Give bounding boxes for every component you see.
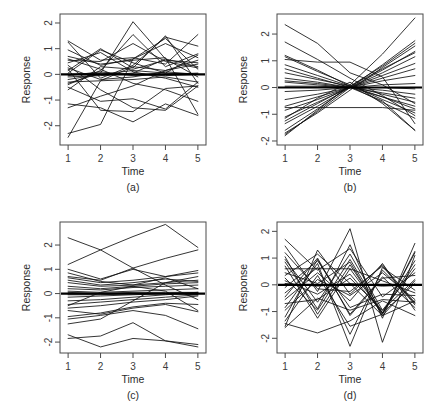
y-tick-label: 0 (260, 282, 271, 288)
y-tick-label: 1 (43, 45, 54, 51)
y-tick-label: 0 (43, 290, 54, 296)
panel-caption-a: (a) (127, 181, 140, 193)
series-line (68, 303, 198, 316)
x-tick-label: 1 (65, 153, 71, 164)
series-line (68, 304, 198, 314)
series-group (68, 224, 198, 347)
x-tick-label: 3 (130, 153, 136, 164)
y-tick-label: -1 (43, 95, 54, 104)
x-tick-label: 4 (380, 361, 386, 372)
series-line (285, 259, 415, 312)
x-tick-label: 5 (412, 153, 418, 164)
series-line (68, 250, 198, 280)
spaghetti-plot-a: 12345-2-1012ResponseTime(a) (0, 0, 222, 206)
spaghetti-plot-c: 12345-2-1012ResponseTime(c) (0, 206, 222, 412)
y-axis-label: Response (20, 264, 32, 311)
chart-panel-a: 12345-2-1012ResponseTime(a) (0, 0, 222, 206)
series-line (68, 323, 198, 345)
x-tick-label: 1 (65, 361, 71, 372)
y-tick-label: -1 (43, 313, 54, 322)
x-tick-label: 2 (315, 153, 321, 164)
series-line (285, 298, 415, 327)
spaghetti-plot-d: 12345-2-1012ResponseTime(d) (222, 206, 444, 412)
y-tick-label: 2 (260, 31, 271, 37)
y-tick-label: -2 (260, 136, 271, 145)
chart-panel-b: 12345-2-1012ResponseTime(b) (222, 0, 444, 206)
series-line (68, 271, 198, 283)
series-line (68, 311, 198, 329)
y-tick-label: -1 (260, 307, 271, 316)
spaghetti-plot-b: 12345-2-1012ResponseTime(b) (222, 0, 444, 206)
panel-caption-c: (c) (127, 389, 139, 401)
panel-caption-b: (b) (344, 181, 357, 193)
series-line (68, 104, 198, 122)
y-tick-label: 0 (43, 71, 54, 77)
x-tick-label: 3 (347, 361, 353, 372)
series-line (68, 238, 198, 300)
x-tick-label: 1 (282, 361, 288, 372)
x-tick-label: 1 (282, 153, 288, 164)
x-tick-label: 5 (195, 153, 201, 164)
series-line (285, 82, 415, 130)
series-group (285, 229, 415, 347)
series-group (68, 22, 198, 138)
x-tick-label: 2 (315, 361, 321, 372)
panel-caption-d: (d) (344, 389, 357, 401)
y-tick-label: -1 (260, 109, 271, 118)
chart-panel-d: 12345-2-1012ResponseTime(d) (222, 206, 444, 412)
x-tick-label: 3 (347, 153, 353, 164)
x-tick-label: 4 (163, 361, 169, 372)
series-line (285, 301, 415, 333)
y-tick-label: 2 (43, 242, 54, 248)
y-tick-label: 1 (260, 255, 271, 261)
y-axis-label: Response (20, 56, 32, 103)
x-tick-label: 2 (98, 153, 104, 164)
x-tick-label: 5 (195, 361, 201, 372)
figure-panel-grid: 12345-2-1012ResponseTime(a)12345-2-1012R… (0, 0, 444, 412)
x-axis-label: Time (122, 165, 145, 177)
series-line (285, 57, 415, 113)
series-line (68, 224, 198, 264)
chart-panel-c: 12345-2-1012ResponseTime(c) (0, 206, 222, 412)
series-line (285, 108, 415, 111)
x-axis-label: Time (339, 165, 362, 177)
y-tick-label: 1 (260, 58, 271, 64)
y-tick-label: 0 (260, 84, 271, 90)
x-tick-label: 4 (380, 153, 386, 164)
y-tick-label: -2 (43, 337, 54, 346)
y-axis-label: Response (237, 264, 249, 311)
x-tick-label: 4 (163, 153, 169, 164)
x-tick-label: 5 (412, 361, 418, 372)
y-tick-label: 2 (43, 20, 54, 26)
x-tick-label: 2 (98, 361, 104, 372)
y-tick-label: 2 (260, 228, 271, 234)
y-tick-label: 1 (43, 266, 54, 272)
y-tick-label: -2 (260, 333, 271, 342)
x-axis-label: Time (339, 373, 362, 385)
y-tick-label: -2 (43, 121, 54, 130)
x-tick-label: 3 (130, 361, 136, 372)
series-group (285, 18, 415, 136)
y-axis-label: Response (237, 56, 249, 103)
x-axis-label: Time (122, 373, 145, 385)
